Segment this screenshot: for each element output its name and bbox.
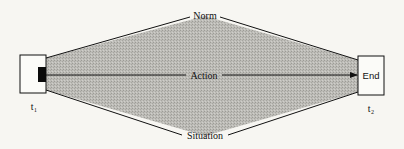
t1-time-label: t₁ xyxy=(31,101,37,112)
t2-time-label: t₂ xyxy=(368,103,374,114)
situation-label: Situation xyxy=(187,130,223,141)
action-label: Action xyxy=(190,70,217,81)
end-box-label: End xyxy=(363,70,380,81)
norm-label: Norm xyxy=(193,10,217,21)
action-norm-situation-diagram: Norm Action Situation End t₁ t₂ xyxy=(0,0,404,149)
start-marker xyxy=(38,67,46,82)
